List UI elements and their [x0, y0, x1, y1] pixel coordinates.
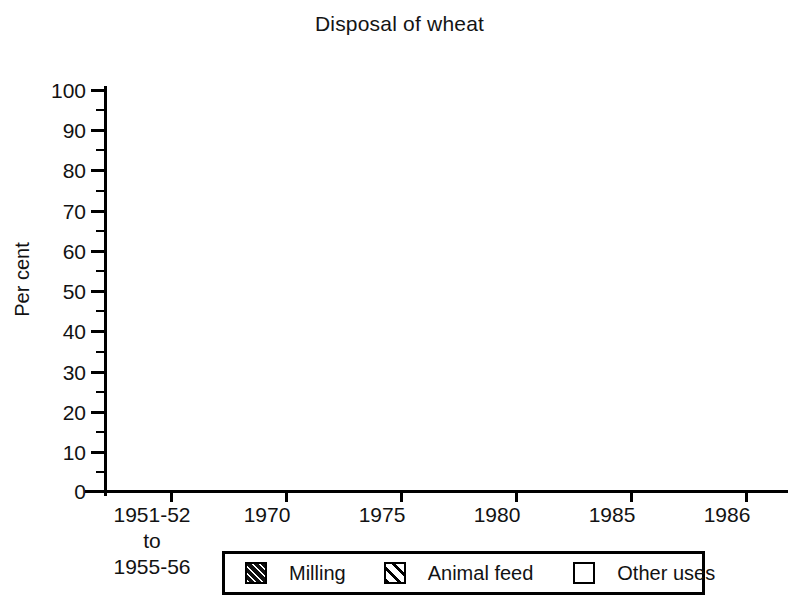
- x-tick-label-1: 1951-52 to 1955-56: [92, 502, 212, 580]
- y-tick-0: [91, 490, 105, 493]
- legend-swatch-milling-icon: [245, 562, 267, 584]
- legend-item-other-uses[interactable]: Other uses: [573, 554, 715, 592]
- y-tick-label-40: 40: [8, 321, 86, 342]
- x-tick-4: [515, 490, 518, 502]
- y-minor-tick-5: [96, 471, 105, 473]
- x-tick-label-6: 1986: [672, 502, 782, 528]
- y-minor-tick-55: [96, 270, 105, 272]
- x-axis-line: [85, 490, 788, 493]
- legend-swatch-other-uses-icon: [573, 562, 595, 584]
- y-minor-tick-85: [96, 149, 105, 151]
- y-tick-10: [91, 451, 105, 454]
- y-tick-label-60: 60: [8, 241, 86, 262]
- x-tick-2: [285, 490, 288, 502]
- y-tick-label-70: 70: [8, 201, 86, 222]
- y-minor-tick-65: [96, 230, 105, 232]
- y-minor-tick-35: [96, 351, 105, 353]
- y-minor-tick-75: [96, 190, 105, 192]
- y-tick-label-10: 10: [8, 442, 86, 463]
- x-tick-label-4: 1980: [442, 502, 552, 528]
- y-tick-label-50: 50: [8, 281, 86, 302]
- x-tick-label-3: 1975: [327, 502, 437, 528]
- legend-item-milling[interactable]: Milling: [245, 554, 346, 592]
- y-tick-label-90: 90: [8, 120, 86, 141]
- y-tick-40: [91, 330, 105, 333]
- x-tick-6: [745, 490, 748, 502]
- y-minor-tick-45: [96, 310, 105, 312]
- x-tick-label-2: 1970: [212, 502, 322, 528]
- y-tick-70: [91, 210, 105, 213]
- x-tick-1: [170, 490, 173, 502]
- chart-legend: Milling Animal feed Other uses: [222, 551, 705, 595]
- y-tick-30: [91, 371, 105, 374]
- y-tick-90: [91, 129, 105, 132]
- y-tick-60: [91, 250, 105, 253]
- y-tick-label-30: 30: [8, 362, 86, 383]
- y-tick-20: [91, 411, 105, 414]
- y-tick-80: [91, 169, 105, 172]
- x-tick-3: [400, 490, 403, 502]
- y-minor-tick-15: [96, 431, 105, 433]
- y-tick-100: [91, 89, 105, 92]
- y-tick-label-0: 0: [8, 481, 86, 502]
- legend-swatch-animal-feed-icon: [384, 562, 406, 584]
- y-minor-tick-95: [96, 109, 105, 111]
- legend-label-other-uses: Other uses: [617, 562, 715, 585]
- y-minor-tick-25: [96, 391, 105, 393]
- chart-plot-area: Per cent 100 90 80 70 60 50 40 30 20 10 …: [0, 0, 799, 615]
- legend-label-animal-feed: Animal feed: [428, 562, 534, 585]
- legend-label-milling: Milling: [289, 562, 346, 585]
- y-tick-label-80: 80: [8, 160, 86, 181]
- x-tick-label-5: 1985: [557, 502, 667, 528]
- y-tick-label-100: 100: [8, 80, 86, 101]
- y-tick-50: [91, 290, 105, 293]
- legend-item-animal-feed[interactable]: Animal feed: [384, 554, 534, 592]
- x-tick-5: [630, 490, 633, 502]
- y-tick-label-20: 20: [8, 402, 86, 423]
